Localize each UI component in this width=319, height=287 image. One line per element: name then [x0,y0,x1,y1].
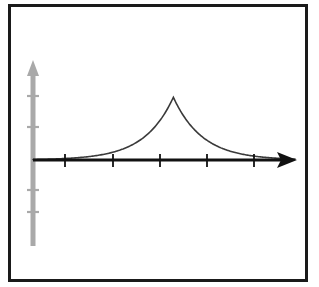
density-curve-group [33,97,295,159]
laplace-density-curve [33,97,295,159]
y-axis-group [27,60,39,246]
figure-root [0,0,319,287]
x-axis-group [33,152,297,168]
plot-canvas [0,0,319,287]
y-axis-arrow-icon [27,60,39,76]
